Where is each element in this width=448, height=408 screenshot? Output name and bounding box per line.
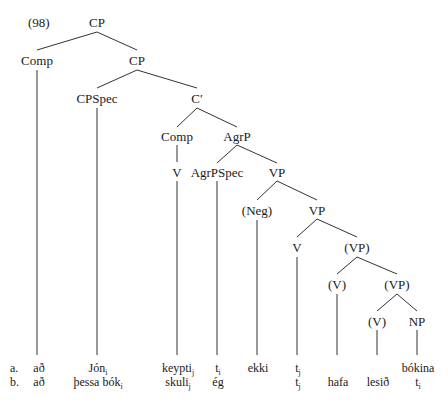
node-v3: (V) [328,278,346,292]
node-np: NP [409,315,426,329]
node-comp-top: Comp [21,54,53,68]
example-number: (98) [28,16,50,30]
row-a-word: ti [215,362,221,375]
node-vp3: (VP) [344,241,369,255]
row-b-word: ég [212,376,223,389]
node-cpspec: CPSpec [76,92,117,106]
node-cp-root: CP [89,16,105,30]
row-b-word: þessa bóki [73,376,122,389]
row-b-word: að [33,376,44,389]
row-a-word: tj [295,362,301,375]
row-a-word: að [33,362,44,375]
row-a-word: Jóni [89,362,108,375]
row-b-label: b. [10,376,19,389]
node-vp1: VP [269,166,286,180]
node-vp4: (VP) [384,278,409,292]
row-a-word: ekki [248,362,269,375]
tree-branches [0,0,448,408]
row-b-word: lesið [367,376,390,389]
node-v-under-comp: V [172,166,181,180]
row-a-word: bókina [402,362,435,375]
node-comp-mid: Comp [161,130,193,144]
row-b-word: ti [415,376,421,389]
row-a-label: a. [10,362,18,375]
row-b-word: skulij [165,376,191,389]
node-v4: (V) [368,315,386,329]
row-b-word: hafa [328,376,349,389]
node-vp2: VP [309,204,326,218]
node-cp-inner: CP [129,54,145,68]
node-agrpspec: AgrPSpec [191,166,244,180]
node-agrp: AgrP [223,130,250,144]
row-a-word: keyptij [162,362,194,375]
node-c-bar: C′ [191,92,203,106]
node-v2: V [292,241,301,255]
node-neg: (Neg) [242,204,272,218]
row-b-word: tj [295,376,301,389]
